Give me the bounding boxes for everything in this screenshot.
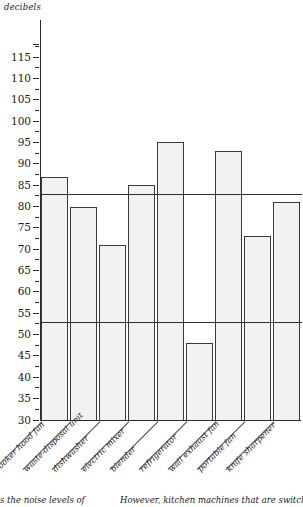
bar — [273, 202, 300, 421]
y-tick-minor — [35, 153, 39, 154]
y-tick-label: 50 — [3, 329, 31, 339]
category-label: wall exhaust fan — [167, 419, 221, 473]
y-tick-label: 35 — [3, 393, 31, 403]
y-tick — [33, 377, 39, 378]
y-tick-label: 110 — [3, 73, 31, 83]
y-tick — [33, 420, 39, 421]
y-tick — [33, 206, 39, 207]
y-tick — [33, 291, 39, 292]
y-tick-label: 40 — [3, 372, 31, 382]
category-leader-line — [138, 421, 187, 470]
bar — [128, 185, 155, 421]
y-tick-label: 80 — [3, 201, 31, 211]
y-tick — [33, 334, 39, 335]
y-tick-minor — [35, 366, 39, 367]
y-tick-minor — [35, 302, 39, 303]
y-tick-minor — [35, 174, 39, 175]
y-tick-label: 105 — [3, 94, 31, 104]
category-label: knife sharpener — [225, 421, 278, 474]
category-label: dishwasher — [51, 434, 91, 474]
category-leader-line — [109, 421, 158, 470]
y-tick-minor — [35, 345, 39, 346]
y-tick — [33, 355, 39, 356]
y-tick — [33, 57, 39, 58]
y-axis-unit-label: decibels — [4, 2, 41, 12]
y-tick — [33, 78, 39, 79]
bar — [157, 142, 184, 421]
y-tick-label: 45 — [3, 350, 31, 360]
y-tick-label: 60 — [3, 286, 31, 296]
category-label: portable fan — [196, 431, 238, 473]
category-label: refrigerator — [138, 432, 179, 473]
y-tick-label: 75 — [3, 222, 31, 232]
y-tick — [33, 44, 39, 45]
x-axis-baseline — [40, 420, 301, 421]
y-tick — [33, 227, 39, 228]
y-tick-label: 55 — [3, 308, 31, 318]
y-tick-minor — [35, 67, 39, 68]
y-tick-label: 65 — [3, 265, 31, 275]
category-label: electric mixer — [80, 427, 127, 474]
bar — [99, 245, 126, 421]
y-tick-label: 115 — [3, 52, 31, 62]
y-tick-minor — [35, 46, 39, 47]
y-tick — [33, 313, 39, 314]
y-tick-label: 70 — [3, 244, 31, 254]
y-tick-minor — [35, 281, 39, 282]
y-tick — [33, 249, 39, 250]
reference-line — [40, 322, 302, 323]
category-label: blender — [109, 445, 138, 474]
footer-caption-right: However, kitchen machines that are switc… — [120, 495, 303, 505]
y-tick — [33, 398, 39, 399]
bar — [70, 207, 97, 422]
footer-caption-left: s the noise levels of — [0, 495, 118, 505]
category-leader-line — [225, 421, 274, 470]
category-leader-line — [51, 421, 100, 470]
y-tick — [33, 163, 39, 164]
y-tick-minor — [35, 89, 39, 90]
category-leader-line — [167, 421, 216, 470]
y-tick-minor — [35, 259, 39, 260]
bar — [244, 236, 271, 421]
y-tick-minor — [35, 195, 39, 196]
reference-line — [40, 194, 302, 195]
category-leader-line — [0, 421, 42, 470]
category-label: cooker hood fan — [0, 420, 46, 474]
category-leader-line — [196, 421, 245, 470]
y-tick — [33, 99, 39, 100]
y-tick-minor — [35, 387, 39, 388]
y-tick-label: 95 — [3, 137, 31, 147]
category-leader-line — [22, 421, 71, 470]
y-tick — [33, 270, 39, 271]
y-tick-minor — [35, 217, 39, 218]
y-tick-label: 100 — [3, 116, 31, 126]
bar — [41, 177, 68, 421]
y-tick-minor — [35, 110, 39, 111]
y-tick-label: 90 — [3, 158, 31, 168]
y-tick-minor — [35, 238, 39, 239]
category-leader-line — [80, 421, 129, 470]
y-tick-minor — [35, 409, 39, 410]
y-tick-label: 85 — [3, 180, 31, 190]
bar — [215, 151, 242, 421]
y-tick-minor — [35, 323, 39, 324]
y-tick-label: 30 — [3, 415, 31, 425]
y-tick — [33, 121, 39, 122]
y-tick — [33, 185, 39, 186]
y-tick — [33, 142, 39, 143]
bar — [186, 343, 213, 421]
y-tick-minor — [35, 131, 39, 132]
bar-chart: decibels 3035404550556065707580859095100… — [0, 0, 303, 507]
